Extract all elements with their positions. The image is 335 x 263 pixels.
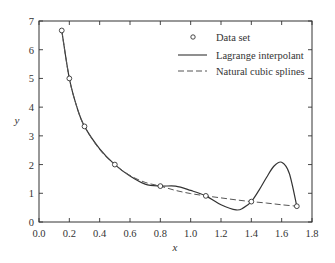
x-tick-label: 1.2	[214, 228, 227, 239]
x-tick-label: 0.2	[63, 228, 76, 239]
x-axis-label: x	[172, 241, 178, 253]
y-axis-label: y	[14, 114, 20, 126]
chart: 0.00.20.40.60.81.01.21.41.61.8 01234567 …	[0, 0, 335, 263]
x-tick-label: 0.0	[32, 228, 45, 239]
data-point	[112, 162, 117, 167]
data-point	[158, 184, 163, 189]
x-tick-label: 0.8	[154, 228, 167, 239]
data-point	[59, 28, 64, 33]
y-tick-label: 5	[29, 73, 34, 84]
y-axis-ticks: 01234567	[29, 16, 312, 228]
y-tick-label: 2	[29, 160, 34, 171]
y-tick-label: 4	[29, 102, 35, 113]
x-tick-label: 1.8	[305, 228, 318, 239]
data-point	[67, 76, 72, 81]
y-tick-label: 6	[29, 45, 34, 56]
x-tick-label: 0.4	[93, 228, 107, 239]
legend-marker-data-set-icon	[191, 35, 195, 39]
y-tick-label: 0	[29, 217, 34, 228]
y-tick-label: 3	[29, 131, 34, 142]
x-tick-label: 0.6	[123, 228, 136, 239]
data-point	[249, 199, 254, 204]
x-tick-label: 1.4	[245, 228, 259, 239]
y-tick-label: 7	[29, 16, 34, 27]
data-point	[82, 124, 87, 129]
y-tick-label: 1	[29, 188, 34, 199]
legend: Data set Lagrange interpolant Natural cu…	[178, 32, 305, 77]
x-tick-label: 1.6	[275, 228, 288, 239]
x-tick-label: 1.0	[184, 228, 197, 239]
legend-label-data-set: Data set	[216, 32, 250, 43]
legend-label-lagrange: Lagrange interpolant	[216, 50, 304, 61]
data-point	[203, 193, 208, 198]
legend-label-splines: Natural cubic splines	[216, 66, 305, 77]
data-point	[294, 204, 299, 209]
